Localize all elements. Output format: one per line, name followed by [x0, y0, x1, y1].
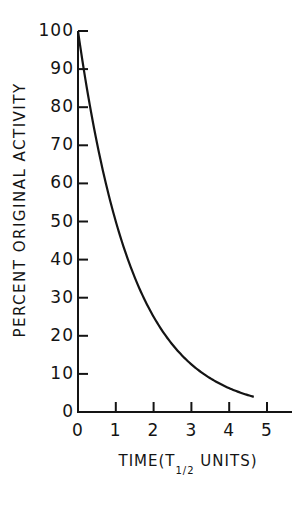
y-tick-label: 70: [50, 136, 74, 153]
x-axis-label: TIME(T1/2 UNITS): [118, 452, 257, 472]
y-tick-label: 60: [50, 174, 74, 191]
x-ticks: [116, 402, 267, 412]
axes: [77, 31, 292, 412]
y-tick-label: 40: [50, 251, 74, 268]
x-axis-label-end: UNITS): [195, 452, 258, 470]
y-tick-label: 80: [50, 98, 74, 115]
x-tick-label: 3: [185, 422, 197, 439]
x-tick-label: 5: [261, 422, 273, 439]
x-tick-label: 0: [72, 422, 84, 439]
y-tick-label: 100: [39, 22, 74, 39]
y-tick-label: 30: [50, 289, 74, 306]
x-axis-label-main: TIME(T: [118, 452, 175, 470]
y-tick-label: 90: [50, 60, 74, 77]
x-tick-label: 4: [223, 422, 235, 439]
y-axis-label: PERCENT ORIGINAL ACTIVITY: [11, 82, 29, 337]
y-tick-label: 0: [62, 403, 74, 420]
decay-curve: [78, 31, 254, 397]
x-tick-label: 2: [148, 422, 160, 439]
y-tick-label: 20: [50, 327, 74, 344]
y-tick-label: 10: [50, 365, 74, 382]
x-axis-label-sub: 1/2: [176, 465, 195, 476]
x-tick-label: 1: [110, 422, 122, 439]
y-tick-label: 50: [50, 213, 74, 230]
